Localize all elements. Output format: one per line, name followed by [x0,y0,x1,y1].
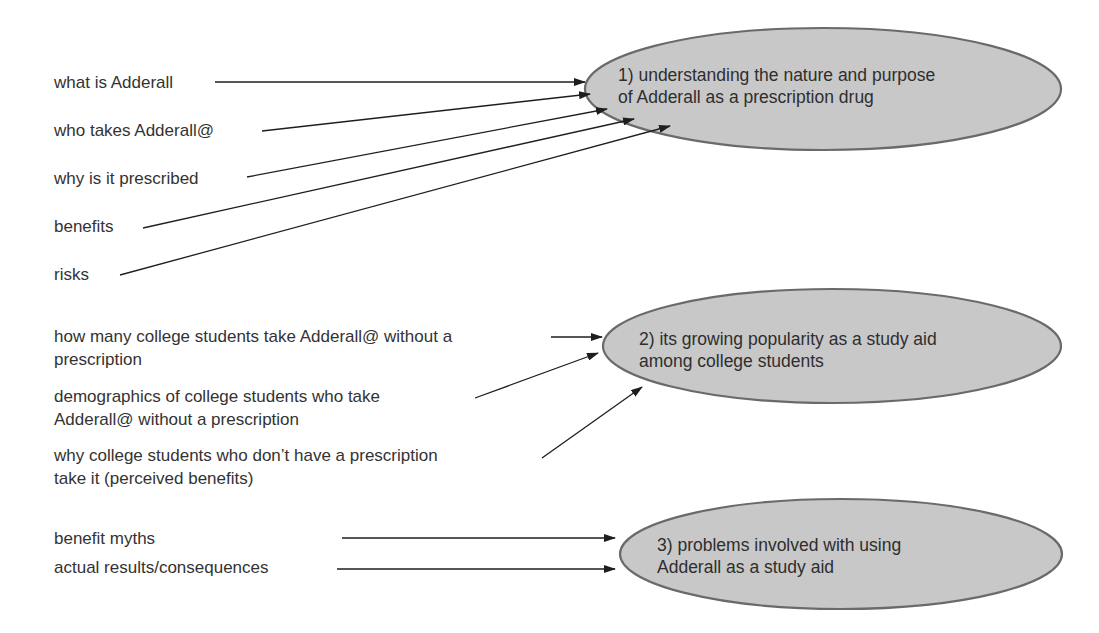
arrow-who-takes [262,94,590,131]
subtopic-what-is-adderall: what is Adderall [54,72,173,94]
topic-1-label-line-1: 1) understanding the nature and purpose [618,64,935,86]
subtopic-how-many-line-2: prescription [54,349,142,371]
subtopic-actual-results: actual results/consequences [54,557,269,579]
topic-1-label-line-2: of Adderall as a prescription drug [618,86,874,108]
subtopic-why-prescribed: why is it prescribed [54,168,199,190]
subtopic-how-many-line-1: how many college students take Adderall@… [54,326,452,348]
connector-layer [0,0,1099,633]
topic-2-label-line-1: 2) its growing popularity as a study aid [639,328,937,350]
subtopic-demographics-line-2: Adderall@ without a prescription [54,409,299,431]
topic-2-label-line-2: among college students [639,350,824,372]
arrow-benefits [143,119,634,228]
subtopic-risks: risks [54,264,89,286]
idea-map-diagram: 1) understanding the nature and purpose … [0,0,1099,633]
subtopic-why-students-line-2: take it (perceived benefits) [54,468,253,490]
subtopic-benefits: benefits [54,216,114,238]
subtopic-benefit-myths: benefit myths [54,528,155,550]
topic-3-label-line-1: 3) problems involved with using [657,534,901,556]
arrow-risks [120,126,670,275]
arrow-why-students [542,387,642,458]
subtopic-demographics-line-1: demographics of college students who tak… [54,386,380,408]
topic-3-label-line-2: Adderall as a study aid [657,556,834,578]
arrow-demographics [475,353,598,398]
subtopic-who-takes-adderall: who takes Adderall@ [54,120,214,142]
arrow-why-prescribed [247,109,607,177]
subtopic-why-students-line-1: why college students who don’t have a pr… [54,445,438,467]
